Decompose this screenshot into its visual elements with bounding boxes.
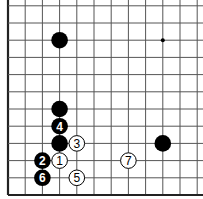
black-stone <box>51 32 68 49</box>
white-stone-7: 7 <box>121 153 137 169</box>
move-number: 5 <box>73 171 80 185</box>
stone-disc <box>155 135 172 152</box>
black-stone <box>51 101 68 118</box>
star-points <box>161 38 165 42</box>
black-stone-2: 2 <box>34 152 51 169</box>
move-number: 1 <box>56 154 63 168</box>
move-number: 6 <box>39 171 46 185</box>
move-number: 2 <box>39 154 46 168</box>
move-number: 3 <box>73 137 80 151</box>
white-stone-1: 1 <box>52 153 68 169</box>
stone-disc <box>51 32 68 49</box>
white-stone-3: 3 <box>69 136 85 152</box>
black-stone <box>155 135 172 152</box>
stone-disc <box>51 101 68 118</box>
stone-disc <box>51 135 68 152</box>
move-number: 4 <box>56 120 63 134</box>
move-number: 7 <box>125 154 132 168</box>
black-stone <box>51 135 68 152</box>
go-board: 4321765 <box>0 0 203 199</box>
black-stone-6: 6 <box>34 170 51 187</box>
black-stone-4: 4 <box>51 118 68 135</box>
white-stone-5: 5 <box>69 170 85 186</box>
star-point <box>161 38 165 42</box>
